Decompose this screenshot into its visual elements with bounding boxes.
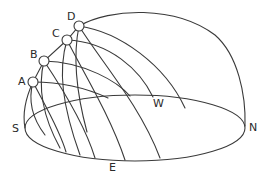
label-north: N	[249, 121, 257, 134]
meridian-arc-3	[44, 61, 95, 158]
meridian-arc-1	[79, 26, 160, 158]
label-south: S	[12, 122, 19, 135]
sun-position-a	[28, 77, 38, 87]
celestial-sphere-diagram: A B C D S N W E	[0, 0, 271, 183]
meridian-arc-4	[33, 82, 66, 152]
label-west: W	[153, 97, 164, 110]
label-east: E	[109, 161, 116, 174]
label-c: C	[52, 27, 60, 40]
sun-position-c	[62, 35, 72, 45]
label-a: A	[18, 75, 26, 88]
label-d: D	[67, 10, 75, 23]
sun-path-d	[79, 26, 185, 108]
sun-position-d	[74, 21, 84, 31]
sun-path-a-back	[31, 82, 45, 135]
label-b: B	[30, 48, 38, 61]
sun-position-b	[39, 56, 49, 66]
sun-path-c-back	[62, 40, 80, 155]
horizon-ellipse	[25, 95, 245, 161]
